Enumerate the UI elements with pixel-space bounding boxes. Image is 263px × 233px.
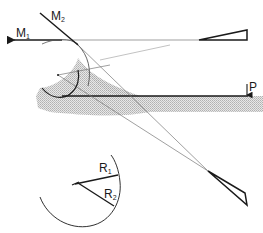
label-m1: M1 <box>16 27 30 40</box>
label-r2: R2 <box>104 188 117 201</box>
label-p: P <box>249 81 257 93</box>
shaded-region <box>36 58 263 115</box>
r1-radius <box>75 175 118 184</box>
upper-triangle <box>199 30 247 40</box>
optics-diagram <box>0 0 263 233</box>
center-ray-line-2 <box>100 45 170 60</box>
label-m2: M2 <box>51 10 65 23</box>
lower-triangle <box>208 171 247 205</box>
label-r1: R1 <box>99 162 112 175</box>
lower-ray-line <box>58 75 208 171</box>
center-dot <box>57 74 59 76</box>
